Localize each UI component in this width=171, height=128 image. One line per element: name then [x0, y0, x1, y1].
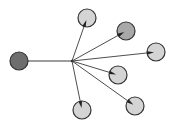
edge-leaf-4 — [72, 61, 109, 72]
leaf-6-node[interactable] — [73, 101, 91, 119]
leaf-2-node[interactable] — [117, 22, 135, 40]
leaf-1-node[interactable] — [78, 9, 96, 27]
star-network-diagram — [0, 0, 171, 128]
hub-node[interactable] — [10, 52, 28, 70]
edge-leaf-6 — [72, 61, 80, 101]
leaf-4-node[interactable] — [109, 66, 127, 84]
edge-leaf-3 — [72, 53, 147, 61]
nodes — [10, 9, 165, 119]
